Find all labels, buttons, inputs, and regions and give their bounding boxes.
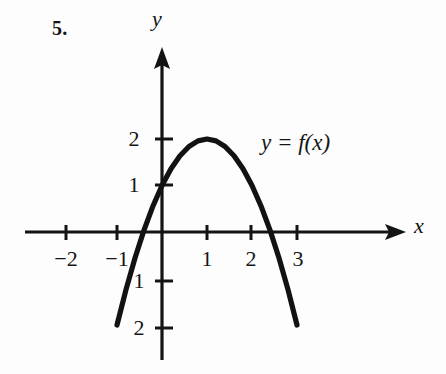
figure-canvas: 5. y x y = f(x) −2 −1 1 2 3 2 1 [0, 0, 446, 374]
y-axis-label: y [152, 6, 162, 32]
x-tick-label-1: 1 [192, 246, 222, 272]
x-axis-label: x [414, 213, 424, 239]
y-tick-label--1: 1 [126, 268, 152, 294]
graph-plot [0, 0, 446, 374]
x-tick-label--2: −2 [46, 246, 86, 272]
y-tick-label--2: 2 [126, 315, 152, 341]
y-tick-label-2: 2 [121, 126, 147, 152]
y-tick-label-1: 1 [121, 172, 147, 198]
x-tick-label-3: 3 [283, 246, 313, 272]
x-tick-label-2: 2 [236, 246, 266, 272]
function-label: y = f(x) [261, 130, 330, 156]
